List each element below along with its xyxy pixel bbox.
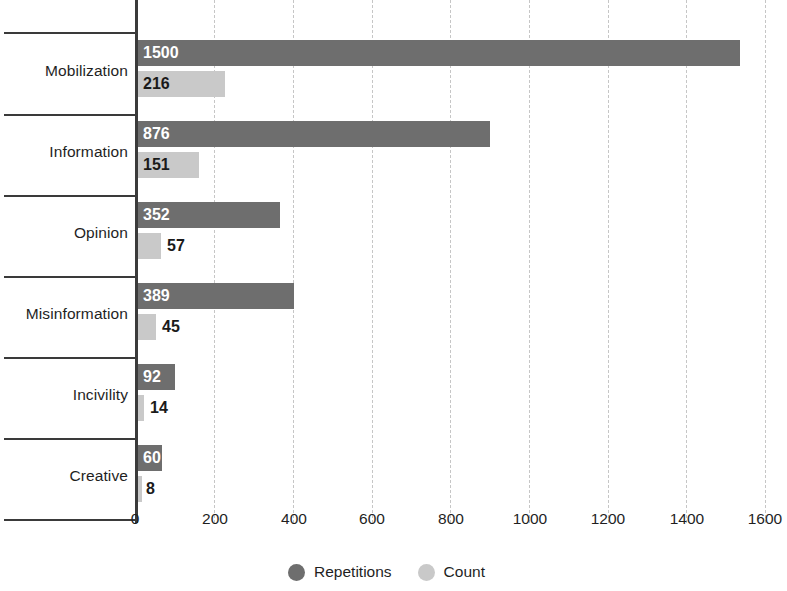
bar-count-opinion	[138, 233, 161, 259]
xaxis-tick-600: 600	[337, 510, 407, 528]
gridline-1400	[686, 0, 687, 523]
bar-repetitions-mobilization	[138, 40, 740, 66]
xaxis-tick-1200: 1200	[573, 510, 643, 528]
category-label-mobilization: Mobilization	[0, 62, 128, 80]
bar-value-repetitions-creative: 60	[143, 445, 161, 471]
legend-item-count[interactable]: Count	[418, 563, 485, 581]
xaxis-tick-200: 200	[180, 510, 250, 528]
xaxis-tick-1600: 1600	[730, 510, 787, 528]
gridline-400	[293, 0, 294, 523]
bar-value-count-creative: 8	[146, 476, 155, 502]
bar-value-repetitions-incivility: 92	[143, 364, 161, 390]
category-label-opinion: Opinion	[0, 224, 128, 242]
legend-item-repetitions[interactable]: Repetitions	[288, 563, 392, 581]
bar-value-repetitions-opinion: 352	[143, 202, 170, 228]
plot-area: Mobilization 1500 216 Information 876 15…	[0, 0, 773, 530]
legend-circle-icon-repetitions	[288, 564, 305, 581]
xaxis-tick-1000: 1000	[495, 510, 565, 528]
bar-value-count-misinformation: 45	[162, 314, 180, 340]
bar-repetitions-information	[138, 121, 490, 147]
xaxis-tick-0: 0	[100, 510, 170, 528]
gridline-1200	[608, 0, 609, 523]
category-separator	[4, 195, 138, 197]
gridline-1000	[529, 0, 530, 523]
legend-label-repetitions: Repetitions	[314, 563, 392, 581]
category-label-misinformation: Misinformation	[0, 305, 128, 323]
category-separator	[4, 114, 138, 116]
bar-value-count-incivility: 14	[150, 395, 168, 421]
bar-value-count-information: 151	[143, 152, 170, 178]
bar-value-repetitions-information: 876	[143, 121, 170, 147]
gridline-800	[450, 0, 451, 523]
bar-count-creative	[138, 476, 142, 502]
bar-value-repetitions-mobilization: 1500	[143, 40, 179, 66]
xaxis-tick-800: 800	[416, 510, 486, 528]
bar-value-count-opinion: 57	[167, 233, 185, 259]
category-label-information: Information	[0, 143, 128, 161]
bar-count-misinformation	[138, 314, 156, 340]
legend-label-count: Count	[444, 563, 485, 581]
legend-circle-icon-count	[418, 564, 435, 581]
category-label-creative: Creative	[0, 467, 128, 485]
chart-legend: Repetitions Count	[0, 556, 773, 588]
bar-count-incivility	[138, 395, 144, 421]
category-separator	[4, 357, 138, 359]
category-separator	[4, 438, 138, 440]
bar-value-count-mobilization: 216	[143, 71, 170, 97]
xaxis-tick-1400: 1400	[652, 510, 722, 528]
category-separator	[4, 276, 138, 278]
bar-value-repetitions-misinformation: 389	[143, 283, 170, 309]
category-separator	[4, 32, 138, 34]
xaxis-tick-400: 400	[259, 510, 329, 528]
gridline-600	[372, 0, 373, 523]
category-label-incivility: Incivility	[0, 386, 128, 404]
gridline-1600	[765, 0, 766, 523]
